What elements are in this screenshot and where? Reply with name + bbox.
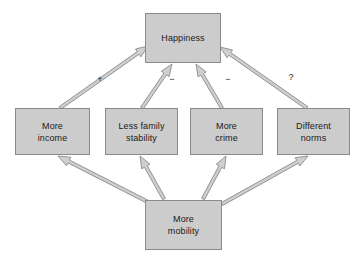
- node-more-crime-label: More crime: [215, 120, 238, 144]
- node-more-income-label: More income: [38, 120, 68, 144]
- node-happiness[interactable]: Happiness: [145, 13, 221, 63]
- node-different-norms[interactable]: Different norms: [277, 108, 350, 155]
- edge-family-to-happiness: [141, 64, 172, 109]
- node-less-family-stability-label: Less family stability: [118, 120, 164, 144]
- edge-mobility-to-crime: [202, 156, 226, 200]
- edge-label-question: ?: [285, 73, 297, 82]
- node-less-family-stability[interactable]: Less family stability: [105, 108, 178, 155]
- node-more-mobility[interactable]: More mobility: [145, 200, 222, 250]
- node-happiness-label: Happiness: [161, 32, 204, 44]
- edge-label-minus-crime: −: [222, 75, 234, 84]
- node-more-mobility-label: More mobility: [168, 213, 199, 237]
- edge-mobility-to-family: [140, 156, 165, 200]
- edges-group: [58, 46, 308, 205]
- node-more-income[interactable]: More income: [15, 108, 90, 155]
- diagram-canvas: Happiness More income Less family stabil…: [0, 0, 360, 259]
- node-different-norms-label: Different norms: [296, 120, 331, 144]
- edge-mobility-to-norms: [221, 156, 308, 205]
- edge-label-plus: +: [94, 75, 106, 84]
- edge-mobility-to-income: [58, 156, 151, 204]
- edge-crime-to-happiness: [196, 64, 223, 109]
- edge-label-minus-family: −: [166, 75, 178, 84]
- node-more-crime[interactable]: More crime: [190, 108, 263, 155]
